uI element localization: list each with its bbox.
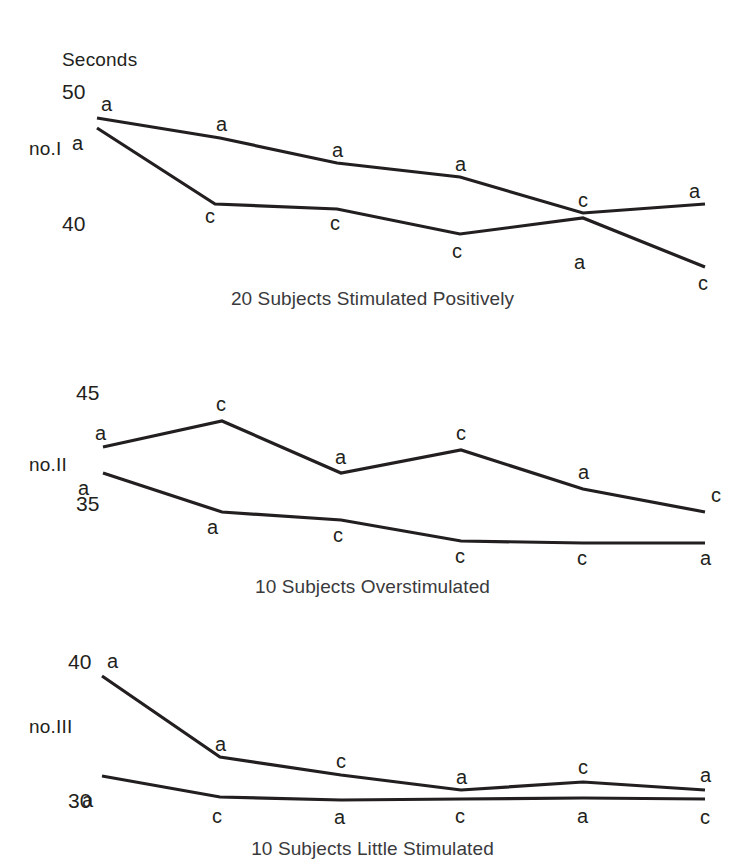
point-label: a — [577, 805, 588, 828]
point-label: c — [577, 547, 587, 570]
panel-caption-no-iii: 10 Subjects Little Stimulated — [0, 838, 745, 860]
point-label: c — [452, 240, 462, 263]
point-label: a — [78, 477, 89, 500]
point-label: c — [578, 189, 588, 212]
point-label: a — [332, 139, 343, 162]
row-label-no-ii: no.II — [29, 454, 67, 476]
series-line-upper — [102, 676, 705, 790]
point-label: a — [574, 251, 585, 274]
point-label: a — [455, 153, 466, 176]
point-label: c — [578, 756, 588, 779]
point-label: a — [334, 806, 345, 829]
point-label: a — [72, 132, 83, 155]
point-label: c — [212, 805, 222, 828]
point-label: c — [456, 422, 466, 445]
point-label: a — [95, 422, 106, 445]
point-label: a — [82, 789, 93, 812]
point-label: a — [335, 446, 346, 469]
point-label: a — [578, 461, 589, 484]
series-line-a — [97, 118, 705, 213]
series-line-upper — [103, 421, 705, 512]
y-tick-high: 40 — [68, 650, 91, 674]
point-label: a — [700, 764, 711, 787]
panel-caption-no-ii: 10 Subjects Overstimulated — [0, 576, 745, 598]
series-line-lower — [102, 776, 705, 800]
point-label: a — [689, 180, 700, 203]
point-label: c — [455, 805, 465, 828]
point-label: a — [456, 766, 467, 789]
point-label: c — [216, 393, 226, 416]
point-label: a — [101, 93, 112, 116]
point-label: a — [216, 113, 227, 136]
series-line-c — [97, 128, 705, 267]
point-label: c — [330, 212, 340, 235]
point-label: a — [107, 650, 118, 673]
point-label: c — [336, 750, 346, 773]
point-label: c — [205, 205, 215, 228]
point-label: c — [711, 484, 721, 507]
chart-panel-no-i: Seconds 50 40 no.I a a a a c a a c c c a… — [0, 0, 745, 320]
y-tick-high: 45 — [76, 381, 99, 405]
point-label: c — [333, 524, 343, 547]
figure-page: Seconds 50 40 no.I a a a a c a a c c c a… — [0, 0, 745, 867]
point-label: c — [455, 545, 465, 568]
point-label: c — [700, 806, 710, 829]
panel-caption-no-i: 20 Subjects Stimulated Positively — [0, 288, 745, 310]
point-label: a — [700, 547, 711, 570]
chart-lines-no-i — [0, 0, 745, 320]
series-line-lower — [103, 473, 705, 543]
point-label: a — [207, 516, 218, 539]
row-label-no-iii: no.III — [29, 716, 72, 738]
point-label: a — [215, 733, 226, 756]
